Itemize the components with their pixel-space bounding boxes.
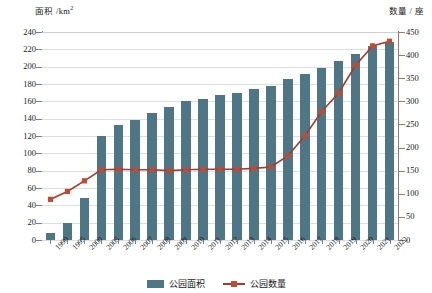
y-axis-right-tick — [399, 101, 405, 102]
legend-bar-swatch-icon — [147, 280, 164, 288]
y-axis-left-tick-label: 0 — [32, 236, 36, 245]
line-marker[interactable] — [99, 167, 104, 172]
y-axis-right-tick — [399, 124, 405, 125]
plot-area — [42, 32, 398, 240]
line-marker[interactable] — [251, 166, 256, 171]
y-axis-right-tick — [399, 171, 405, 172]
line-marker[interactable] — [116, 167, 121, 172]
y-axis-right-tick-label: 350 — [406, 74, 419, 83]
y-axis-left-tick-label: 220 — [23, 45, 36, 54]
line-marker[interactable] — [150, 167, 155, 172]
x-axis-tick — [152, 240, 153, 244]
line-marker[interactable] — [200, 167, 205, 172]
y-axis-right-tick-label: 200 — [406, 143, 419, 152]
line-marker[interactable] — [336, 90, 341, 95]
line-marker[interactable] — [167, 168, 172, 173]
line-marker[interactable] — [82, 178, 87, 183]
x-axis-tick — [118, 240, 119, 244]
line-marker[interactable] — [268, 164, 273, 169]
line-marker[interactable] — [133, 167, 138, 172]
y-axis-left-title-superscript: 2 — [70, 5, 73, 11]
line-marker[interactable] — [285, 153, 290, 158]
line-marker[interactable] — [353, 63, 358, 68]
y-axis-right-tick-label: 450 — [406, 28, 419, 37]
legend-bar-label: 公园面积 — [169, 277, 205, 290]
line-marker[interactable] — [387, 39, 392, 44]
y-axis-right-line — [398, 31, 399, 241]
y-axis-left-tick-label: 80 — [28, 166, 37, 175]
y-axis-right-tick-label: 150 — [406, 166, 419, 175]
y-axis-right-tick-label: 100 — [406, 189, 419, 198]
y-axis-left-tick-label: 40 — [28, 201, 37, 210]
line-marker[interactable] — [65, 189, 70, 194]
y-axis-left-tick-label: 160 — [23, 97, 36, 106]
x-axis-tick — [203, 240, 204, 244]
x-axis-tick — [390, 240, 391, 244]
x-axis-tick — [84, 240, 85, 244]
y-axis-right-tick — [399, 78, 405, 79]
line-marker[interactable] — [48, 197, 53, 202]
x-axis-tick — [237, 240, 238, 244]
x-axis-tick — [356, 240, 357, 244]
y-axis-right-tick — [399, 148, 405, 149]
y-axis-right-title: 数量 / 座 — [389, 4, 424, 16]
x-axis-tick — [288, 240, 289, 244]
chart-legend: 公园面积 公园数量 — [0, 277, 432, 290]
y-axis-left-tick-label: 140 — [23, 114, 36, 123]
x-axis-tick — [305, 240, 306, 244]
y-axis-right-tick-label: 300 — [406, 97, 419, 106]
x-axis-tick — [339, 240, 340, 244]
x-axis-tick — [271, 240, 272, 244]
y-axis-left-tick-label: 100 — [23, 149, 36, 158]
y-axis-right-tick — [399, 32, 405, 33]
y-axis-left-tick-label: 120 — [23, 132, 36, 141]
line-marker[interactable] — [234, 167, 239, 172]
y-axis-left-tick-label: 240 — [23, 28, 36, 37]
y-axis-left-tick-label: 180 — [23, 80, 36, 89]
line-series — [42, 32, 398, 240]
legend-item-line[interactable]: 公园数量 — [223, 277, 286, 290]
chart-container: 面积 /km2 数量 / 座 0204060801001201401601802… — [0, 0, 432, 293]
y-axis-left-title: 面积 /km2 — [35, 4, 73, 16]
x-axis-tick — [220, 240, 221, 244]
y-axis-right-tick-label: 50 — [406, 212, 415, 221]
y-axis-right-tick — [399, 55, 405, 56]
y-axis-right-tick-label: 400 — [406, 51, 419, 60]
line-marker[interactable] — [217, 167, 222, 172]
x-axis-tick — [50, 240, 51, 244]
y-axis-right-tick — [399, 194, 405, 195]
legend-line-swatch-icon — [223, 280, 245, 288]
y-axis-left-tick-label: 20 — [28, 218, 37, 227]
line-marker[interactable] — [370, 43, 375, 48]
x-axis-tick — [169, 240, 170, 244]
line-marker[interactable] — [184, 167, 189, 172]
x-axis-tick — [373, 240, 374, 244]
y-axis-right-tick-label: 250 — [406, 120, 419, 129]
y-axis-left-tick-label: 60 — [28, 184, 37, 193]
x-axis-tick — [135, 240, 136, 244]
line-marker[interactable] — [302, 133, 307, 138]
legend-line-label: 公园数量 — [250, 277, 286, 290]
line-marker[interactable] — [319, 109, 324, 114]
x-axis-tick — [254, 240, 255, 244]
x-axis-tick — [67, 240, 68, 244]
x-axis-tick — [101, 240, 102, 244]
x-axis-tick — [322, 240, 323, 244]
y-axis-left-tick-label: 200 — [23, 62, 36, 71]
y-axis-right-tick — [399, 217, 405, 218]
x-axis-tick — [186, 240, 187, 244]
legend-item-bar[interactable]: 公园面积 — [147, 277, 205, 290]
